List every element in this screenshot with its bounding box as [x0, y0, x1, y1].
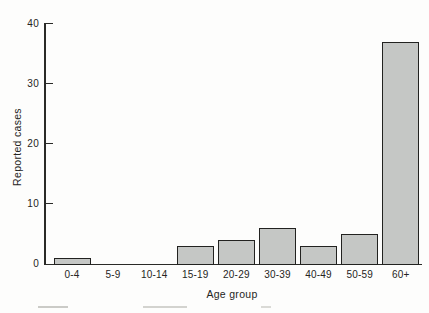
bar-40-49: [300, 246, 337, 265]
y-tick: [45, 143, 53, 145]
y-tick: [45, 83, 53, 85]
bar-0-4: [54, 258, 91, 265]
y-tick-label: 40: [0, 18, 39, 30]
x-tick-label: 10-14: [141, 269, 168, 280]
figure-canvas: Reported cases Age group 0102030400-45-9…: [0, 0, 429, 313]
x-tick-label: 5-9: [106, 269, 121, 280]
y-tick: [45, 203, 53, 205]
y-tick-label: 0: [0, 258, 39, 270]
x-tick-label: 20-29: [223, 269, 250, 280]
cutoff-caption-artifact: [38, 306, 68, 308]
x-tick-label: 30-39: [264, 269, 291, 280]
y-tick-label: 30: [0, 78, 39, 90]
x-tick-label: 15-19: [182, 269, 209, 280]
x-tick-label: 50-59: [346, 269, 373, 280]
x-tick-label: 60+: [392, 269, 410, 280]
bar-30-39: [259, 228, 296, 265]
cutoff-caption-artifact: [261, 306, 271, 308]
bar-chart: Reported cases Age group 0102030400-45-9…: [0, 0, 429, 313]
y-tick-label: 10: [0, 198, 39, 210]
x-tick-label: 0-4: [64, 269, 79, 280]
bar-60-: [382, 42, 419, 265]
y-tick-label: 20: [0, 138, 39, 150]
bar-20-29: [218, 240, 255, 265]
bar-50-59: [341, 234, 378, 265]
cutoff-caption-artifact: [143, 306, 187, 308]
y-tick: [45, 23, 53, 25]
x-tick-label: 40-49: [305, 269, 332, 280]
x-axis-label: Age group: [206, 288, 257, 300]
bar-15-19: [177, 246, 214, 265]
